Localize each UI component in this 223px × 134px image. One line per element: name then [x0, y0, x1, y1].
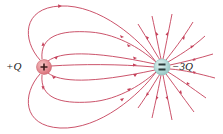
negative-charge — [154, 59, 170, 75]
direction-arrows — [42, 35, 138, 102]
negative-charge-label: −3Q — [172, 61, 193, 72]
positive-charge-label: +Q — [6, 61, 21, 72]
positive-charge — [37, 60, 52, 75]
field-line-diagram: +Q −3Q — [0, 0, 223, 134]
